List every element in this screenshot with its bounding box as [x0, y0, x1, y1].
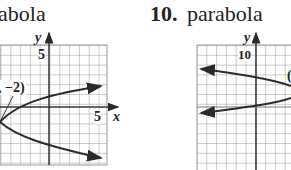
x-tick-label-9: 5 — [94, 110, 101, 124]
annotation-10: ( — [287, 68, 291, 84]
y-tick-label-9: 5 — [38, 48, 45, 62]
y-axis-label-10: y — [244, 30, 250, 46]
x-axis-label-9: x — [113, 109, 120, 125]
y-tick-label-10: 10 — [238, 48, 251, 61]
graphs-figure — [0, 0, 291, 170]
y-axis-label-9: y — [35, 30, 41, 46]
vertex-annotation-9: , −2) — [0, 80, 26, 95]
graph-9 — [0, 33, 118, 165]
